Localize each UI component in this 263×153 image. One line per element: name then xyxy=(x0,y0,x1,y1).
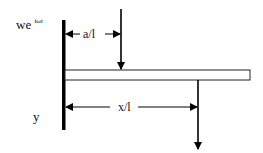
label-we: we xyxy=(16,17,31,32)
label-a-over-l: a/l xyxy=(83,27,96,41)
label-x-over-l: x/l xyxy=(118,100,131,114)
label-exponent: iωt xyxy=(34,17,43,25)
label-y-axis: y xyxy=(33,109,40,124)
label-base-excitation: we iωt xyxy=(16,17,43,32)
cantilever-diagram: a/l x/l we iωt y xyxy=(0,0,263,153)
beam xyxy=(65,70,250,80)
